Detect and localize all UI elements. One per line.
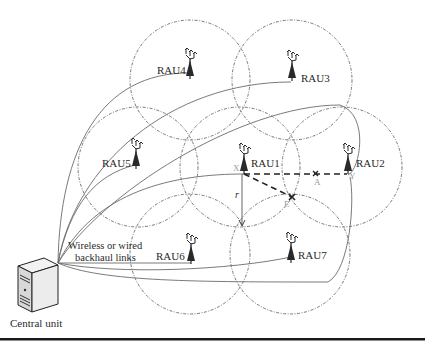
- antenna-icon-rau1: [239, 143, 251, 174]
- backhaul-caption-line1: Wireless or wired: [68, 240, 143, 251]
- antenna-icon-rau6: [186, 233, 198, 264]
- central-unit-label: Central unit: [10, 317, 62, 329]
- label-rau4: RAU4: [157, 64, 186, 76]
- label-rau1: RAU1: [251, 157, 280, 169]
- diagram-canvas: RAU4 RAU3 RAU5 RAU1 RAU2 RAU6 RAU7 X A E…: [0, 0, 425, 347]
- antenna-icon-rau7: [286, 232, 298, 263]
- radius-label: r: [235, 189, 239, 200]
- antenna-icon-rau3: [287, 50, 299, 81]
- label-rau3: RAU3: [301, 72, 330, 84]
- antenna-icon-rau4: [185, 48, 197, 79]
- point-y: Y: [349, 171, 356, 181]
- label-rau7: RAU7: [298, 249, 327, 261]
- antenna-icon-rau5: [131, 138, 143, 169]
- label-rau6: RAU6: [156, 250, 185, 262]
- backhaul-caption-line2: backhaul links: [75, 252, 136, 263]
- link-rau2-lower: [58, 177, 352, 282]
- cell-rau5: [78, 107, 198, 227]
- label-rau2: RAU2: [356, 157, 385, 169]
- cell-rau4: [130, 20, 250, 140]
- point-e: E: [284, 199, 290, 209]
- server-icon: [18, 258, 58, 312]
- handover-path: [239, 171, 347, 226]
- point-a: A: [314, 177, 321, 187]
- label-rau5: RAU5: [102, 157, 131, 169]
- bottom-rule: [0, 338, 425, 341]
- point-x: X: [233, 163, 240, 173]
